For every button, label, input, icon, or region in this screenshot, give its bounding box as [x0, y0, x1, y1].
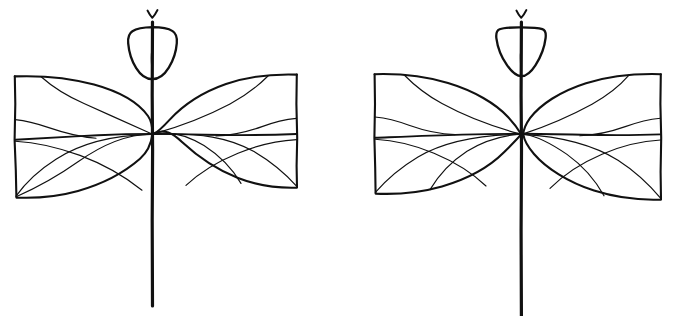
botanical-figure: [0, 0, 676, 316]
figure-background: [0, 0, 676, 316]
figure-canvas: [0, 0, 676, 316]
